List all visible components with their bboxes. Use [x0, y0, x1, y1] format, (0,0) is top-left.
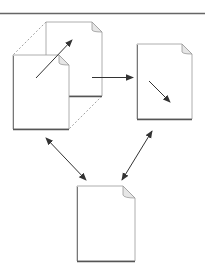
double-arrow-stack-bottom	[46, 138, 86, 180]
stack-front-page	[13, 55, 69, 130]
bottom-page	[77, 186, 135, 262]
diagram-canvas	[0, 0, 205, 269]
double-arrow-right-bottom	[122, 131, 152, 180]
right-page	[137, 44, 192, 120]
